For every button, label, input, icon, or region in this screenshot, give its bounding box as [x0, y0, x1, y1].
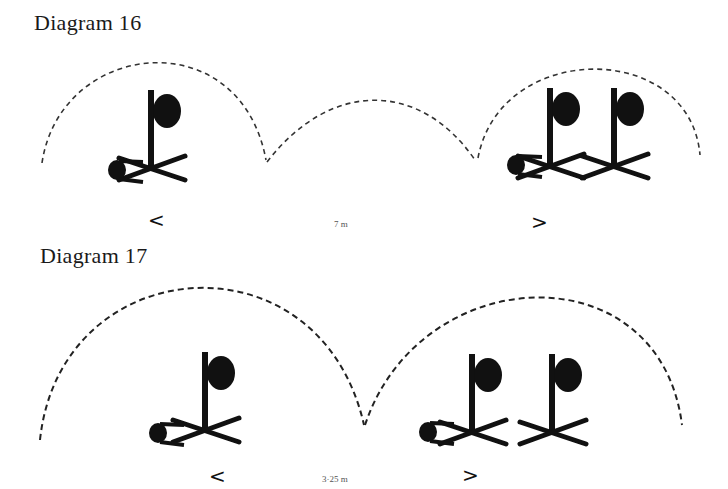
diagram-17-arcs	[40, 288, 682, 440]
arc-3	[478, 69, 700, 158]
arc-2	[267, 100, 475, 162]
diagram-16-arcs	[42, 63, 700, 163]
diagram-17-station-left	[149, 352, 239, 445]
diagram-17-station-right	[419, 354, 586, 444]
diagram-canvas	[0, 0, 728, 489]
diagram-16-station-right	[507, 88, 648, 178]
diagram-16-station-left	[108, 90, 185, 182]
arc-2	[365, 297, 682, 425]
